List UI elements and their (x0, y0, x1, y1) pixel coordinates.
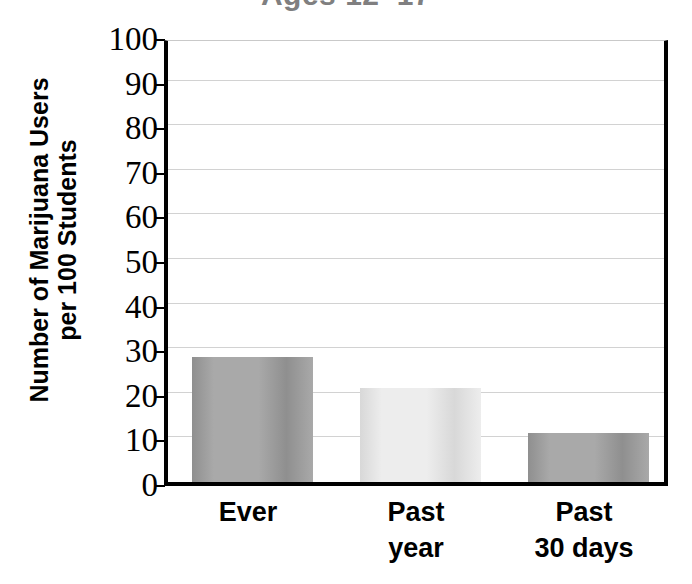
x-axis-category-label: Past30 days (500, 495, 668, 566)
y-axis-tick-label: 20 (38, 380, 158, 413)
y-axis-tick-label: 90 (38, 68, 158, 101)
bar-chart-figure: Ages 12–17 Number of Marijuana Users per… (0, 0, 692, 584)
x-axis-category-label-line: Past (500, 495, 668, 531)
y-axis-tick-label: 10 (38, 424, 158, 457)
bar (192, 357, 313, 482)
y-axis-tick-label: 70 (38, 157, 158, 190)
x-axis-category-label-line: Ever (164, 495, 332, 531)
y-axis-tick-label: 60 (38, 201, 158, 234)
y-axis-tick-label: 0 (38, 469, 158, 502)
y-axis-tick-label: 30 (38, 335, 158, 368)
y-axis-tick-label: 80 (38, 112, 158, 145)
chart-title-clip: Ages 12–17 (0, 0, 692, 13)
plot-area (164, 40, 668, 486)
chart-title: Ages 12–17 (0, 0, 692, 12)
x-axis-category-label-line: year (332, 531, 500, 567)
y-axis-tick-labels: 0102030405060708090100 (34, 40, 158, 486)
bar (360, 388, 481, 482)
y-axis-tick-label: 40 (38, 291, 158, 324)
y-axis-tick-label: 100 (38, 23, 158, 56)
bar (528, 433, 649, 482)
x-axis-category-label-line: Past (332, 495, 500, 531)
x-axis-category-label: Pastyear (332, 495, 500, 566)
x-axis-category-label-line: 30 days (500, 531, 668, 567)
bar-series (168, 41, 664, 482)
x-axis-category-label: Ever (164, 495, 332, 531)
y-axis-tick-label: 50 (38, 246, 158, 279)
x-axis-category-labels: EverPastyearPast30 days (164, 495, 668, 581)
